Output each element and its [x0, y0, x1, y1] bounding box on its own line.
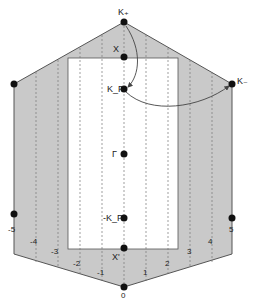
label-gamma: Γ	[112, 149, 117, 159]
tick-neg3: -3	[51, 247, 59, 256]
tick-neg5: -5	[8, 225, 16, 234]
point-k-plus	[121, 19, 128, 26]
tick-neg4: -4	[30, 237, 38, 246]
point-x-prime	[121, 245, 128, 252]
tick-2: 2	[165, 259, 170, 268]
point-k-minus	[229, 81, 236, 88]
tick-neg2: -2	[73, 259, 81, 268]
point-x	[121, 54, 128, 61]
tick-zero: 0	[121, 291, 126, 299]
point-left-bottom	[11, 211, 18, 218]
tick-4: 4	[208, 237, 213, 246]
point-left-top	[11, 81, 18, 88]
point-origin	[121, 284, 128, 291]
tick-3: 3	[187, 247, 192, 256]
label-x: X	[113, 44, 119, 54]
brillouin-zone-diagram: K₊ X K_F Γ -K_F X' K₋ -5 -4 -3 -2 -1 0 1…	[0, 0, 253, 299]
label-k-f: K_F	[107, 84, 124, 94]
label-neg-k-f: -K_F	[103, 213, 123, 223]
point-gamma	[121, 151, 128, 158]
tick-neg1: -1	[97, 268, 105, 277]
point-right-bottom	[229, 215, 236, 222]
tick-1: 1	[143, 268, 148, 277]
label-k-minus: K₋	[237, 76, 248, 86]
label-x-prime: X'	[112, 252, 120, 262]
tick-5: 5	[229, 225, 234, 234]
label-k-plus: K₊	[118, 7, 129, 17]
